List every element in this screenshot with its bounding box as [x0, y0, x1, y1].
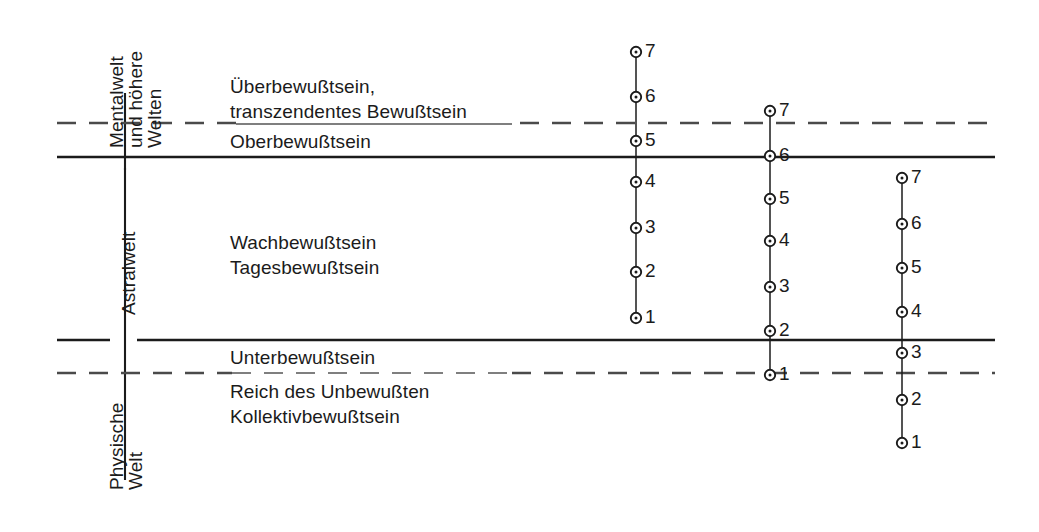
scales-group — [631, 47, 907, 448]
scale-point-marker-dot — [635, 271, 638, 274]
scale-scale-3 — [897, 173, 907, 448]
label-wachbewusstsein: Wachbewußtsein — [230, 232, 376, 254]
scale-point-label: 2 — [645, 260, 656, 282]
scale-point-label: 7 — [911, 166, 922, 188]
world-label-mental-line3: Welten — [144, 89, 165, 148]
scale-point-label: 5 — [645, 129, 656, 151]
scale-point-label: 1 — [911, 431, 922, 453]
label-unterbewusstsein: Unterbewußtsein — [230, 347, 375, 369]
scale-scale-1 — [631, 47, 641, 323]
label-oberbewusstsein: Oberbewußtsein — [230, 131, 371, 153]
scale-point-marker-dot — [769, 286, 772, 289]
boundary-mental-upper-dashed — [57, 123, 995, 124]
scale-point-marker-dot — [901, 352, 904, 355]
scale-point-label: 3 — [645, 216, 656, 238]
diagram-lines-layer — [0, 0, 1039, 532]
scale-point-label: 2 — [911, 388, 922, 410]
world-label-mental-line2: und höhere — [125, 51, 146, 148]
label-ueberbewusstsein-line2: transzendentes Bewußtsein — [230, 101, 467, 123]
scale-point-marker-dot — [635, 96, 638, 99]
label-kollektivbewusstsein: Kollektivbewußtsein — [230, 406, 400, 428]
label-reich-des-unbewussten: Reich des Unbewußten — [230, 381, 430, 403]
world-label-astral: Astralwelt — [118, 232, 139, 315]
scale-point-marker-dot — [635, 140, 638, 143]
scale-point-marker-dot — [769, 155, 772, 158]
scale-point-label: 3 — [911, 341, 922, 363]
scale-point-marker-dot — [635, 51, 638, 54]
world-label-mental-line1: Mentalwelt — [106, 56, 127, 148]
scale-point-label: 2 — [779, 319, 790, 341]
world-label-physical-line2: Welt — [125, 452, 146, 490]
scale-point-marker-dot — [901, 442, 904, 445]
scale-point-label: 4 — [779, 229, 790, 251]
scale-point-label: 1 — [645, 306, 656, 328]
label-tagesbewusstsein: Tagesbewußtsein — [230, 257, 379, 279]
world-label-physical-line1: Physische — [106, 403, 127, 491]
scale-point-marker-dot — [769, 240, 772, 243]
scale-point-label: 3 — [779, 275, 790, 297]
scale-point-marker-dot — [901, 223, 904, 226]
label-ueberbewusstsein-line1: Überbewußtsein, — [230, 76, 375, 98]
scale-point-marker-dot — [901, 177, 904, 180]
scale-point-label: 5 — [779, 187, 790, 209]
scale-point-marker-dot — [635, 181, 638, 184]
consciousness-layers-diagram: Mentalwelt und höhere Welten Astralwelt … — [0, 0, 1039, 532]
scale-point-label: 4 — [911, 300, 922, 322]
scale-point-label: 6 — [779, 144, 790, 166]
scale-point-marker-dot — [901, 267, 904, 270]
scale-point-marker-dot — [769, 198, 772, 201]
scale-point-marker-dot — [769, 374, 772, 377]
scale-point-marker-dot — [769, 330, 772, 333]
scale-point-label: 7 — [779, 99, 790, 121]
scale-point-marker-dot — [901, 399, 904, 402]
scale-point-label: 7 — [645, 40, 656, 62]
scale-point-marker-dot — [769, 110, 772, 113]
scale-point-label: 6 — [911, 212, 922, 234]
scale-point-marker-dot — [635, 227, 638, 230]
scale-point-marker-dot — [901, 311, 904, 314]
scale-point-label: 1 — [779, 363, 790, 385]
scale-point-label: 5 — [911, 256, 922, 278]
scale-point-label: 6 — [645, 85, 656, 107]
scale-point-label: 4 — [645, 170, 656, 192]
scale-point-marker-dot — [635, 317, 638, 320]
